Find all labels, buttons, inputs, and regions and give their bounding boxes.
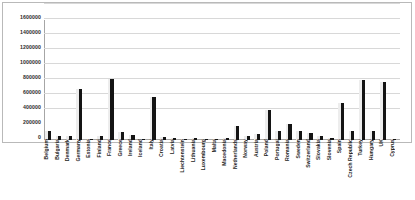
gridline — [44, 63, 400, 64]
y-axis-tick-label: 1400000 — [3, 29, 41, 35]
x-axis-tick-label: Hungary — [366, 139, 376, 197]
x-axis-tick-label-text: Portugal — [274, 139, 280, 160]
gridline — [44, 33, 400, 34]
bar-chart: 1600000140000012000001000000800000600000… — [0, 0, 415, 200]
x-axis-tick-label: Belgium — [41, 139, 51, 197]
y-axis-tick-label: 800000 — [3, 74, 41, 80]
y-axis-tick-label: 1000000 — [3, 59, 41, 65]
x-axis-tick-label: Netherlands — [229, 139, 239, 197]
x-axis-tick-label: Slovakia — [313, 139, 323, 197]
x-axis-tick-label: Greece — [114, 139, 124, 197]
x-axis-tick-label-text: Croatia — [158, 139, 164, 157]
gridline — [44, 18, 400, 19]
x-axis-tick-label: Lithuania — [188, 139, 198, 197]
x-axis-tick-label-text: Switzerland — [305, 139, 311, 168]
gridline — [44, 93, 400, 94]
x-axis-tick-label: Germany — [72, 139, 82, 197]
x-axis-tick-label-text: Turkey — [357, 139, 363, 156]
y-axis-tick-label: 200000 — [3, 119, 41, 125]
x-axis-tick-label: UK — [376, 139, 386, 197]
x-axis-tick-label: Turkey — [355, 139, 365, 197]
x-axis-tick-label-text: Belgium — [43, 139, 49, 159]
x-axis-tick-label-text: Romania — [284, 139, 290, 161]
x-axis-tick-label-text: Cyprus — [389, 139, 395, 157]
x-axis-tick-label: Finland — [93, 139, 103, 197]
x-axis-tick-label-text: Liechtenstein — [179, 139, 185, 172]
x-axis-tick-label-text: Czech Republic — [347, 139, 353, 178]
x-axis-tick-label: Spain — [334, 139, 344, 197]
x-axis-tick-label: Austria — [250, 139, 260, 197]
x-axis-tick-label: Latvia — [167, 139, 177, 197]
x-axis-tick-label: Czech Republic — [345, 139, 355, 197]
plot-area — [44, 20, 400, 140]
y-axis-tick-label: 1200000 — [3, 44, 41, 50]
x-axis-tick-label-text: Finland — [96, 139, 102, 157]
x-axis-tick-label-text: Austria — [253, 139, 259, 157]
x-axis-tick-label-text: Malta — [211, 139, 217, 152]
x-axis-tick-label: Portugal — [271, 139, 281, 197]
gridline — [44, 108, 400, 109]
x-axis-tick-label: Estonia — [83, 139, 93, 197]
x-axis-tick-label-text: Bulgaria — [54, 139, 60, 160]
gridline — [44, 3, 400, 4]
y-axis-tick-label: 600000 — [3, 89, 41, 95]
x-axis-tick-label-text: Sweden — [295, 139, 301, 159]
x-axis-tick-label: France — [104, 139, 114, 197]
x-axis-tick-label: Denmark — [62, 139, 72, 197]
x-axis-tick-label: Italy — [146, 139, 156, 197]
x-axis-tick-label: Cyprus — [387, 139, 397, 197]
x-axis-tick-label: Iceland — [135, 139, 145, 197]
gridline — [44, 48, 400, 49]
y-axis-tick-label: 1600000 — [3, 14, 41, 20]
x-axis-tick-label-text: Estonia — [85, 139, 91, 158]
y-axis-tick-label: 0 — [3, 134, 41, 140]
x-axis-tick-label-text: Germany — [75, 139, 81, 161]
x-axis-tick-label-text: Poland — [263, 139, 269, 156]
x-axis-tick-label: Ireland — [125, 139, 135, 197]
x-axis-tick-label: Sweden — [292, 139, 302, 197]
x-axis-tick-label-text: Netherlands — [232, 139, 238, 169]
chart-frame: 1600000140000012000001000000800000600000… — [2, 2, 412, 143]
x-axis-tick-label-text: Macedonia — [221, 139, 227, 166]
x-axis-tick-label: Luxembourg — [198, 139, 208, 197]
x-axis-tick-label-text: Iceland — [137, 139, 143, 157]
x-axis-tick-label-text: Slovakia — [315, 139, 321, 160]
x-axis-tick-label-text: Norway — [242, 139, 248, 158]
x-axis-tick-label: Croatia — [156, 139, 166, 197]
x-axis-tick-label: Malta — [209, 139, 219, 197]
x-axis-tick-label-text: Italy — [148, 139, 154, 149]
x-axis-tick-label: Norway — [240, 139, 250, 197]
x-axis-tick-label: Liechtenstein — [177, 139, 187, 197]
y-axis-tick-label: 400000 — [3, 104, 41, 110]
x-axis-tick-label-text: Luxembourg — [200, 139, 206, 170]
x-axis-tick-label-text: Slovenia — [326, 139, 332, 160]
x-axis-tick-label-text: Lithuania — [190, 139, 196, 162]
x-axis-tick-label-text: UK — [378, 139, 384, 146]
x-axis-tick-label-text: Spain — [336, 139, 342, 153]
x-axis-tick-label: Poland — [261, 139, 271, 197]
x-axis-tick-label-text: France — [106, 139, 112, 156]
x-axis-tick-label-text: Latvia — [169, 139, 175, 154]
x-axis-tick-label: Macedonia — [219, 139, 229, 197]
gridline — [44, 78, 400, 79]
x-axis-tick-label-text: Greece — [117, 139, 123, 157]
x-axis-tick-label: Romania — [282, 139, 292, 197]
x-axis-tick-label-text: Ireland — [127, 139, 133, 156]
x-axis-tick-label: Switzerland — [303, 139, 313, 197]
x-axis-tick-label-text: Hungary — [368, 139, 374, 160]
x-axis-tick-label: Slovenia — [324, 139, 334, 197]
x-axis-tick-label: Bulgaria — [51, 139, 61, 197]
x-axis-tick-label-text: Denmark — [64, 139, 70, 161]
